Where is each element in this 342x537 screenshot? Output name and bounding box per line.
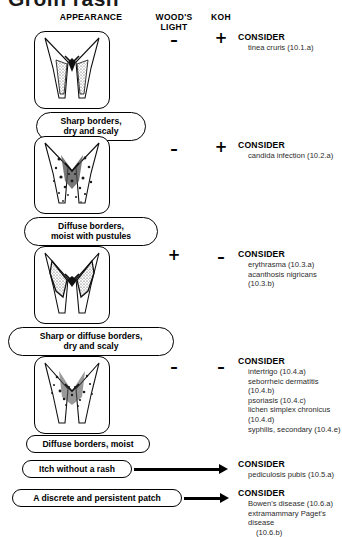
consider-heading: CONSIDER bbox=[238, 356, 342, 366]
row-caption: Diffuse borders, moist with pustules bbox=[24, 217, 158, 246]
diagnosis-item: erythrasma (10.3.a) bbox=[238, 260, 342, 270]
row-caption: Sharp or diffuse borders, dry and scaly bbox=[8, 327, 174, 356]
diagnosis-item: pediculosis pubis (10.5.a) bbox=[238, 470, 342, 480]
diagnosis-item: syphilis, secondary (10.4.e) bbox=[238, 425, 342, 435]
consider-block: CONSIDER pediculosis pubis (10.5.a) bbox=[238, 459, 342, 480]
diagnosis-item: extramammary Paget's disease bbox=[238, 509, 342, 528]
groin-intertrigo-icon bbox=[34, 356, 110, 434]
flow-arrow bbox=[184, 493, 232, 503]
diagnosis-item-continuation: (10.6.b) bbox=[238, 528, 342, 537]
diagnosis-item: lichen simplex chronicus (10.4.d) bbox=[238, 405, 342, 424]
diagnosis-item: intertrigo (10.4.a) bbox=[238, 367, 342, 377]
row-caption: Itch without a rash bbox=[22, 460, 132, 478]
koh-result: + bbox=[210, 31, 232, 45]
consider-heading: CONSIDER bbox=[238, 488, 342, 498]
consider-heading: CONSIDER bbox=[238, 459, 342, 469]
woods-light-result: – bbox=[163, 142, 185, 156]
groin-sharp-scaly-icon bbox=[34, 31, 110, 109]
consider-block: CONSIDER Bowen's disease (10.6.a) extram… bbox=[238, 488, 342, 537]
diagnosis-item: candida infection (10.2.a) bbox=[238, 151, 342, 161]
diagnosis-item: psoriasis (10.4.c) bbox=[238, 396, 342, 406]
column-header-appearance: APPEARANCE bbox=[36, 12, 146, 22]
consider-block: CONSIDER tinea cruris (10.1.a) bbox=[238, 32, 342, 53]
consider-heading: CONSIDER bbox=[238, 140, 342, 150]
page-title: Groin rash bbox=[8, 0, 119, 9]
consider-block: CONSIDER candida infection (10.2.a) bbox=[238, 140, 342, 161]
diagnosis-item: acanthosis nigricans (10.3.b) bbox=[238, 270, 342, 289]
woods-light-result: – bbox=[163, 33, 185, 47]
consider-block: CONSIDER erythrasma (10.3.a) acanthosis … bbox=[238, 249, 342, 289]
koh-result: – bbox=[210, 250, 232, 264]
groin-erythrasma-icon bbox=[34, 246, 110, 324]
consider-heading: CONSIDER bbox=[238, 32, 342, 42]
page-title-strip: Groin rash bbox=[0, 0, 342, 9]
row-caption: Diffuse borders, moist bbox=[26, 435, 150, 453]
column-header-woods-light: WOOD'S LIGHT bbox=[148, 12, 200, 32]
koh-result: + bbox=[210, 140, 232, 154]
column-header-koh: KOH bbox=[203, 12, 239, 22]
groin-pustules-icon bbox=[34, 136, 110, 214]
flow-arrow bbox=[134, 464, 228, 474]
diagnosis-item: seborrheic dermatitis (10.4.b) bbox=[238, 377, 342, 396]
consider-heading: CONSIDER bbox=[238, 249, 342, 259]
woods-light-result: + bbox=[163, 248, 185, 262]
woods-light-result: – bbox=[163, 360, 185, 374]
koh-result: – bbox=[210, 360, 232, 374]
diagnosis-item: Bowen's disease (10.6.a) bbox=[238, 499, 342, 509]
consider-block: CONSIDER intertrigo (10.4.a) seborrheic … bbox=[238, 356, 342, 434]
row-caption: A discrete and persistent patch bbox=[12, 489, 182, 507]
diagnosis-item: tinea cruris (10.1.a) bbox=[238, 43, 342, 53]
